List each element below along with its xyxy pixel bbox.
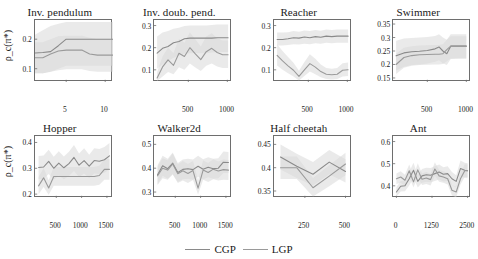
y-tick-label: 0.2: [22, 190, 31, 199]
subplot-hopper: Hopper0.20.30.450010001500: [0, 116, 120, 232]
y-axis-ticklabels: 0.10.2: [8, 19, 34, 104]
y-tick-label: 0.45: [258, 140, 271, 149]
plot-area: [273, 135, 351, 197]
x-tick-label: 500: [421, 105, 432, 114]
y-tick-label: 0.2: [22, 35, 31, 44]
subplot-title: Inv. doub. pend.: [143, 6, 216, 18]
plot-area: [34, 135, 112, 197]
x-tick-label: 250: [298, 221, 309, 230]
subplot-title: Swimmer: [397, 6, 440, 18]
figure-panel-grid: ρ_c(π*) ρ_c(π*) Inv. pendulum0.10.2510In…: [0, 0, 478, 259]
y-tick-label: 0.15: [377, 73, 390, 82]
y-tick-label: 0.3: [261, 21, 270, 30]
x-tick-label: 1000: [192, 221, 207, 230]
plot-area: [273, 19, 351, 81]
subplot-title: Ant: [410, 122, 427, 134]
x-tick-label: 1000: [339, 105, 354, 114]
x-axis-ticklabels: 5001000: [392, 104, 470, 116]
subplot-grid: Inv. pendulum0.10.2510Inv. doub. pend.0.…: [0, 0, 478, 232]
subplot-title: Hopper: [43, 122, 77, 134]
x-tick-label: 1250: [424, 221, 439, 230]
y-tick-label: 0.1: [142, 65, 151, 74]
x-axis-ticklabels: 50010001500: [34, 220, 112, 232]
y-tick-label: 0.3: [381, 33, 390, 42]
x-tick-label: 500: [339, 221, 350, 230]
y-tick-label: 0.3: [22, 164, 31, 173]
confidence-band-lgp: [35, 36, 113, 73]
x-axis-ticklabels: 5001000: [153, 104, 231, 116]
x-tick-label: 2500: [459, 221, 474, 230]
y-axis-ticklabels: 0.350.40.45: [247, 135, 273, 220]
y-axis-ticklabels: 0.30.40.5: [127, 135, 153, 220]
y-tick-label: 0.4: [261, 163, 270, 172]
x-tick-label: 1500: [98, 221, 113, 230]
x-tick-label: 1000: [219, 105, 234, 114]
y-axis-ticklabels: 0.150.20.250.30.35: [366, 19, 392, 104]
plot-area: [392, 19, 470, 81]
subplot-inv-pendulum: Inv. pendulum0.10.2510: [0, 0, 120, 116]
y-tick-label: 0.3: [142, 188, 151, 197]
x-tick-label: 1000: [73, 221, 88, 230]
legend-line-lgp: [243, 249, 268, 250]
y-tick-label: 0.2: [381, 60, 390, 69]
legend-item-lgp: LGP: [243, 244, 293, 255]
x-axis-ticklabels: 250500: [273, 220, 351, 232]
y-tick-label: 0.35: [377, 20, 390, 29]
x-tick-label: 5: [63, 105, 67, 114]
y-tick-label: 0.5: [381, 159, 390, 168]
figure-legend: CGP LGP: [0, 244, 478, 255]
y-tick-label: 0.4: [142, 164, 151, 173]
subplot-inv-doub-pend: Inv. doub. pend.0.10.20.35001000: [120, 0, 240, 116]
legend-item-cgp: CGP: [185, 244, 235, 255]
x-tick-label: 500: [301, 105, 312, 114]
y-tick-label: 0.5: [142, 140, 151, 149]
x-axis-ticklabels: 50010001500: [153, 220, 231, 232]
plot-area: [392, 135, 470, 197]
y-tick-label: 0.4: [22, 138, 31, 147]
plot-area: [34, 19, 112, 81]
y-tick-label: 0.25: [377, 47, 390, 56]
y-tick-label: 0.4: [381, 181, 390, 190]
x-tick-label: 500: [182, 105, 193, 114]
subplot-title: Inv. pendulum: [27, 6, 92, 18]
y-axis-ticklabels: 0.20.30.4: [8, 135, 34, 220]
x-tick-label: 1500: [218, 221, 233, 230]
plot-area: [153, 19, 231, 81]
y-tick-label: 0.2: [261, 43, 270, 52]
subplot-title: Reacher: [280, 6, 317, 18]
legend-label-lgp: LGP: [272, 244, 293, 255]
x-tick-label: 500: [169, 221, 180, 230]
x-tick-label: 10: [100, 105, 108, 114]
subplot-half-cheetah: Half cheetah0.350.40.45250500: [239, 116, 359, 232]
x-axis-ticklabels: 5001000: [273, 104, 351, 116]
legend-line-cgp: [185, 249, 210, 250]
y-tick-label: 0.6: [381, 137, 390, 146]
subplot-title: Walker2d: [158, 122, 201, 134]
x-tick-label: 500: [49, 221, 60, 230]
y-axis-ticklabels: 0.10.20.3: [247, 19, 273, 104]
subplot-title: Half cheetah: [270, 122, 327, 134]
x-axis-ticklabels: 510: [34, 104, 112, 116]
confidence-band-lgp: [277, 44, 348, 80]
x-tick-label: 1000: [458, 105, 473, 114]
subplot-reacher: Reacher0.10.20.35001000: [239, 0, 359, 116]
y-tick-label: 0.35: [258, 187, 271, 196]
x-tick-label: 0: [394, 221, 398, 230]
plot-area: [153, 135, 231, 197]
subplot-walker2d: Walker2d0.30.40.550010001500: [120, 116, 240, 232]
y-tick-label: 0.1: [22, 64, 31, 73]
subplot-ant: Ant0.40.50.6012502500: [359, 116, 478, 232]
y-tick-label: 0.2: [142, 43, 151, 52]
y-axis-ticklabels: 0.40.50.6: [366, 135, 392, 220]
y-tick-label: 0.3: [142, 21, 151, 30]
x-axis-ticklabels: 012502500: [392, 220, 470, 232]
legend-label-cgp: CGP: [214, 244, 235, 255]
y-axis-ticklabels: 0.10.20.3: [127, 19, 153, 104]
subplot-swimmer: Swimmer0.150.20.250.30.355001000: [359, 0, 478, 116]
y-tick-label: 0.1: [261, 65, 270, 74]
